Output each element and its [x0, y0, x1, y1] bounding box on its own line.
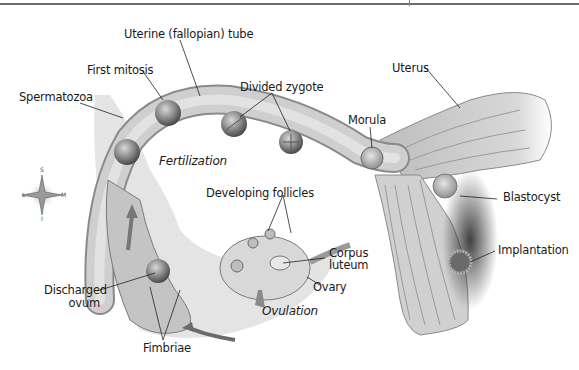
label-blastocyst: Blastocyst	[503, 191, 560, 204]
label-spermatozoa: Spermatozoa	[19, 91, 93, 104]
first-mitosis-cell	[155, 100, 181, 126]
label-ovary: Ovary	[313, 281, 346, 294]
label-fimbriae: Fimbriae	[143, 342, 191, 355]
orientation-compass	[22, 175, 62, 215]
label-corpus-luteum-line2: luteum	[329, 259, 368, 272]
discharged-ovum-cell	[146, 259, 170, 283]
label-morula: Morula	[348, 114, 386, 127]
label-implantation: Implantation	[498, 244, 569, 257]
label-first-mitosis: First mitosis	[87, 64, 153, 77]
fertilized-ovum-cell	[114, 139, 140, 165]
implantation-cell	[449, 251, 471, 273]
label-uterus: Uterus	[392, 62, 429, 75]
label-developing-follicles: Developing follicles	[206, 187, 314, 200]
label-discharged-ovum-line2: ovum	[44, 297, 100, 310]
label-divided-zygote: Divided zygote	[240, 81, 323, 94]
compass-medial: M	[61, 191, 66, 198]
label-uterine-tube: Uterine (fallopian) tube	[124, 28, 253, 41]
morula-cell	[361, 147, 383, 169]
label-ovulation: Ovulation	[262, 305, 318, 318]
compass-lateral: L	[22, 191, 25, 198]
compass-superior: S	[40, 166, 44, 173]
label-fertilization: Fertilization	[159, 155, 227, 168]
compass-inferior: I	[41, 215, 43, 222]
uterus-shape	[375, 93, 551, 336]
blastocyst-cell	[433, 174, 457, 198]
